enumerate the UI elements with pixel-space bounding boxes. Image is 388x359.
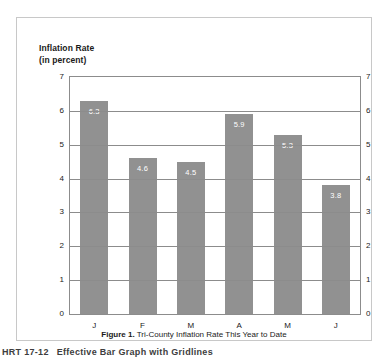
- y-axis-tick-right-7: 7: [366, 73, 370, 81]
- bar-j-5: 3.8: [322, 185, 350, 314]
- bar-value-label: 4.6: [129, 164, 157, 173]
- bar-value-label: 4.5: [177, 168, 205, 177]
- bar-value-label: 5.9: [225, 120, 253, 129]
- y-axis-tick-left-3: 3: [60, 208, 64, 216]
- figure-frame: Inflation Rate (in percent) 6.34.64.55.9…: [16, 17, 372, 341]
- y-axis-tick-right-1: 1: [366, 276, 370, 284]
- gridline-2: [70, 246, 360, 247]
- y-axis-tick-right-2: 2: [366, 242, 370, 250]
- y-axis-tick-right-4: 4: [366, 175, 370, 183]
- y-axis-tick-right-6: 6: [366, 107, 370, 115]
- x-axis-tick-4: M: [274, 321, 302, 330]
- gridline-1: [70, 280, 360, 281]
- gridline-6: [70, 111, 360, 112]
- x-axis-tick-1: F: [129, 321, 157, 330]
- figure-caption-label: Figure 1.: [101, 330, 134, 339]
- y-axis-tick-right-5: 5: [366, 141, 370, 149]
- footer-code: HRT 17-12: [2, 347, 49, 357]
- bar-m-2: 4.5: [177, 162, 205, 314]
- x-axis-tick-2: M: [177, 321, 205, 330]
- x-axis-tick-5: J: [322, 321, 350, 330]
- gridline-4: [70, 179, 360, 180]
- y-axis-tick-left-7: 7: [60, 73, 64, 81]
- y-axis-tick-left-1: 1: [60, 276, 64, 284]
- footer-text: Effective Bar Graph with Gridlines: [57, 347, 213, 357]
- gridline-3: [70, 212, 360, 213]
- y-axis-tick-left-5: 5: [60, 141, 64, 149]
- plot-area: 6.34.64.55.95.33.8 0011223344556677JFMAM…: [69, 76, 361, 315]
- y-axis-tick-left-6: 6: [60, 107, 64, 115]
- chart-title-line-1: Inflation Rate: [39, 42, 94, 54]
- x-axis-tick-3: A: [225, 321, 253, 330]
- figure-caption: Figure 1. Tri-County Inflation Rate This…: [17, 330, 371, 339]
- bar-j-0: 6.3: [80, 101, 108, 314]
- y-axis-tick-right-3: 3: [366, 208, 370, 216]
- y-axis-tick-right-0: 0: [366, 310, 370, 318]
- y-axis-tick-left-2: 2: [60, 242, 64, 250]
- x-axis-tick-0: J: [80, 321, 108, 330]
- plot-inner: 6.34.64.55.95.33.8: [70, 77, 360, 314]
- bar-m-4: 5.3: [274, 135, 302, 314]
- y-axis-tick-left-0: 0: [60, 310, 64, 318]
- y-axis-tick-left-4: 4: [60, 175, 64, 183]
- page-footer: HRT 17-12Effective Bar Graph with Gridli…: [2, 347, 213, 359]
- bar-f-1: 4.6: [129, 158, 157, 314]
- figure-caption-text: Tri-County Inflation Rate This Year to D…: [135, 330, 287, 339]
- chart-axis-title: Inflation Rate (in percent): [39, 42, 94, 66]
- chart-title-line-2: (in percent): [39, 54, 94, 66]
- bar-value-label: 3.8: [322, 191, 350, 200]
- gridline-5: [70, 145, 360, 146]
